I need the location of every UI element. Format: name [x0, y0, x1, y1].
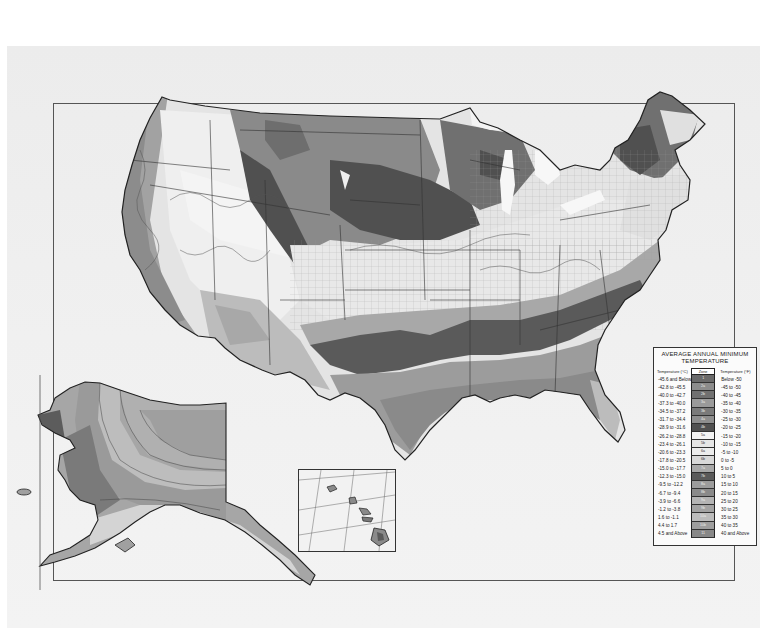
legend-fahrenheit-range: -25 to -30 [715, 417, 756, 422]
legend-title-line1: AVERAGE ANNUAL MINIMUM [654, 351, 756, 358]
legend-row: -23.4 to -26.15b-10 to -15 [654, 440, 756, 448]
legend-row: -42.8 to -45.52a-45 to -50 [654, 383, 756, 391]
legend-celsius-range: -45.6 and Below [654, 377, 691, 382]
legend-celsius-range: -37.3 to -40.0 [654, 401, 691, 406]
legend-celsius-range: -23.4 to -26.1 [654, 442, 691, 447]
legend-row: 4.4 to 1.710b40 to 35 [654, 522, 756, 530]
legend-row: -34.5 to -37.23b-30 to -35 [654, 408, 756, 416]
legend-celsius-range: 4.5 and Above [654, 531, 691, 536]
legend-fahrenheit-range: -20 to -25 [715, 425, 756, 430]
legend-fahrenheit-range: 25 to 20 [715, 499, 756, 504]
legend-header-celsius: Temperature (°C) [654, 369, 691, 374]
legend-row: -6.7 to -9.48b20 to 15 [654, 489, 756, 497]
legend-celsius-range: -20.6 to -23.3 [654, 450, 691, 455]
legend-celsius-range: -40.0 to -42.7 [654, 393, 691, 398]
legend-zone-swatch: 6b [691, 456, 715, 464]
legend-zone-swatch: 6a [691, 448, 715, 456]
legend-celsius-range: -9.5 to -12.2 [654, 482, 691, 487]
legend-celsius-range: -28.9 to -31.6 [654, 425, 691, 430]
legend-zone-swatch: 10b [691, 522, 715, 530]
alaska-inset-map [30, 375, 330, 595]
legend-fahrenheit-range: Below -50 [715, 377, 756, 382]
legend-row: -20.6 to -23.36a-5 to -10 [654, 448, 756, 456]
legend-fahrenheit-range: -45 to -50 [715, 385, 756, 390]
legend-zone-swatch: 3b [691, 408, 715, 416]
legend-zone-swatch: 4b [691, 424, 715, 432]
legend-row: -1.2 to -3.89b30 to 25 [654, 505, 756, 513]
legend-fahrenheit-range: 40 and Above [715, 531, 756, 536]
legend-celsius-range: 4.4 to 1.7 [654, 523, 691, 528]
legend-fahrenheit-range: -40 to -45 [715, 393, 756, 398]
legend-zone-swatch: 4a [691, 416, 715, 424]
legend-celsius-range: -3.9 to -6.6 [654, 499, 691, 504]
legend-fahrenheit-range: -10 to -15 [715, 442, 756, 447]
legend-fahrenheit-range: 15 to 10 [715, 482, 756, 487]
legend-row: -37.3 to -40.03a-35 to -40 [654, 399, 756, 407]
legend-title-line2: TEMPERATURE [654, 358, 756, 365]
legend-celsius-range: -31.7 to -34.4 [654, 417, 691, 422]
legend-row: 1.6 to -1.110a35 to 30 [654, 513, 756, 521]
legend-celsius-range: -15.0 to -17.7 [654, 466, 691, 471]
legend-zone-swatch: 2a [691, 383, 715, 391]
legend-zone-swatch: 2b [691, 391, 715, 399]
legend-fahrenheit-range: 35 to 30 [715, 515, 756, 520]
hawaii-inset [298, 469, 396, 552]
legend-zone-swatch: 3a [691, 399, 715, 407]
legend-zone-swatch: 9a [691, 497, 715, 505]
legend-fahrenheit-range: 0 to -5 [715, 458, 756, 463]
legend-celsius-range: 1.6 to -1.1 [654, 515, 691, 520]
legend-zone-swatch: 8b [691, 489, 715, 497]
legend-fahrenheit-range: -30 to -35 [715, 409, 756, 414]
legend-zone-swatch: 7a [691, 465, 715, 473]
legend-fahrenheit-range: -5 to -10 [715, 450, 756, 455]
legend-row: -31.7 to -34.44a-25 to -30 [654, 416, 756, 424]
hawaii-map [299, 470, 395, 551]
legend-row: -9.5 to -12.28a15 to 10 [654, 481, 756, 489]
legend-row: -3.9 to -6.69a25 to 20 [654, 497, 756, 505]
legend-fahrenheit-range: 40 to 35 [715, 523, 756, 528]
legend-fahrenheit-range: -15 to -20 [715, 434, 756, 439]
legend-header-fahrenheit: Temperature (°F) [715, 369, 756, 374]
legend-row: -15.0 to -17.77a5 to 0 [654, 465, 756, 473]
legend-celsius-range: -17.8 to -20.5 [654, 458, 691, 463]
legend-header-zone: Zone [691, 368, 716, 375]
legend-row: -12.3 to -15.07b10 to 5 [654, 473, 756, 481]
legend-zone-swatch: 8a [691, 481, 715, 489]
legend-row: -28.9 to -31.64b-20 to -25 [654, 424, 756, 432]
legend-fahrenheit-range: -35 to -40 [715, 401, 756, 406]
legend-row: 4.5 and Above1140 and Above [654, 530, 756, 538]
legend-celsius-range: -12.3 to -15.0 [654, 474, 691, 479]
legend-fahrenheit-range: 10 to 5 [715, 474, 756, 479]
legend-fahrenheit-range: 30 to 25 [715, 507, 756, 512]
legend-celsius-range: -6.7 to -9.4 [654, 491, 691, 496]
legend-row: -26.2 to -28.85a-15 to -20 [654, 432, 756, 440]
legend-title: AVERAGE ANNUAL MINIMUM TEMPERATURE [654, 351, 756, 365]
legend-zone-swatch: 10a [691, 513, 715, 521]
legend-fahrenheit-range: 5 to 0 [715, 466, 756, 471]
legend-celsius-range: -26.2 to -28.8 [654, 434, 691, 439]
legend-celsius-range: -34.5 to -37.2 [654, 409, 691, 414]
legend-celsius-range: -1.2 to -3.8 [654, 507, 691, 512]
legend-zone-swatch: 11 [691, 530, 715, 538]
legend-zone-swatch: 1 [691, 375, 715, 383]
legend-row: -45.6 and Below1Below -50 [654, 375, 756, 383]
legend-fahrenheit-range: 20 to 15 [715, 491, 756, 496]
legend-zone-swatch: 9b [691, 505, 715, 513]
legend-zone-swatch: 5b [691, 440, 715, 448]
legend-row: -40.0 to -42.72b-40 to -45 [654, 391, 756, 399]
legend-rows: -45.6 and Below1Below -50-42.8 to -45.52… [654, 375, 756, 538]
legend-header: Temperature (°C) Zone Temperature (°F) [654, 367, 756, 375]
legend-celsius-range: -42.8 to -45.5 [654, 385, 691, 390]
legend-zone-swatch: 7b [691, 473, 715, 481]
legend-row: -17.8 to -20.56b0 to -5 [654, 456, 756, 464]
legend-zone-swatch: 5a [691, 432, 715, 440]
legend: AVERAGE ANNUAL MINIMUM TEMPERATURE Tempe… [653, 347, 757, 546]
